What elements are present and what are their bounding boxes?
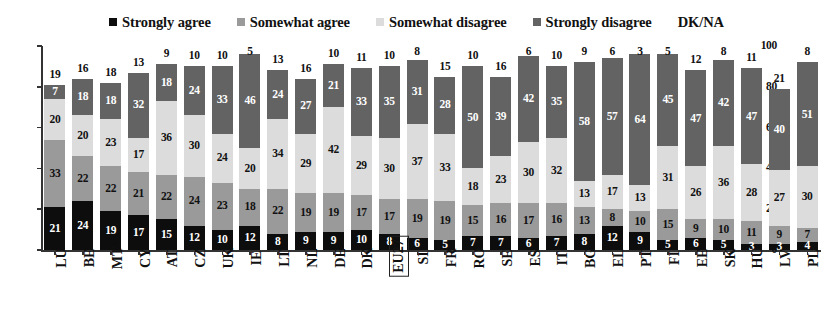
bar-column: 392316716 <box>487 46 515 250</box>
stacked-bar: 4230176 <box>518 56 539 250</box>
stacked-bar: 32172117 <box>128 73 149 250</box>
x-axis-label-de: DE <box>334 248 348 267</box>
chart-plot-area: 020406080100 720332119182022241618232219… <box>41 46 821 250</box>
bar-segment: 20 <box>44 99 65 140</box>
x-label-slot: IT <box>542 256 570 306</box>
x-axis-label-lt: LT <box>278 249 292 266</box>
bar-column: 2430241210 <box>180 46 208 250</box>
bar-column: 720332119 <box>41 46 69 250</box>
bar-segment: 23 <box>100 119 121 166</box>
bar-segment-value: 30 <box>189 140 200 152</box>
stacked-bar: 5018157 <box>462 66 483 250</box>
bar-segment: 18 <box>100 83 121 120</box>
bar-segment-value: 46 <box>244 95 255 107</box>
stacked-bar: 2729199 <box>295 79 316 250</box>
bar-column: 214219910 <box>320 46 348 250</box>
bar-segment: 19 <box>295 193 316 232</box>
stacked-bar: 3137196 <box>407 60 428 250</box>
bar-segment: 27 <box>295 79 316 134</box>
bar-segment-value: 17 <box>133 149 144 161</box>
bar-segment-value: 42 <box>718 97 729 109</box>
chart-legend: Strongly agreeSomewhat agreeSomewhat dis… <box>0 10 833 34</box>
x-label-slot: ES <box>515 256 543 306</box>
stacked-bar: 4531155 <box>657 54 678 250</box>
bar-segment-value: 32 <box>133 99 144 111</box>
stacked-bar: 3532167 <box>546 66 567 250</box>
bar-segment: 8 <box>267 234 288 250</box>
bar-segment: 13 <box>574 181 595 208</box>
bar-segment-value: 42 <box>328 144 339 156</box>
bar-segment: 57 <box>602 58 623 174</box>
bar-segment: 17 <box>379 199 400 234</box>
stacked-bar: 33242310 <box>212 66 233 250</box>
bar-segment: 22 <box>100 166 121 211</box>
bar-segment-value: 16 <box>495 214 506 226</box>
bar-segment: 17 <box>351 195 372 230</box>
bar-segment-value: 23 <box>495 174 506 186</box>
bar-segment: 17 <box>602 175 623 210</box>
bar-segment-value: 13 <box>579 215 590 227</box>
bar-segment: 30 <box>518 142 539 203</box>
bar-segment: 9 <box>323 232 344 250</box>
stacked-bar: 5813138 <box>574 62 595 250</box>
stacked-bar: 2434228 <box>267 70 288 250</box>
bar-segment-value: 17 <box>384 211 395 223</box>
stacked-bars-group: 7203321191820222416182322191832172117131… <box>41 46 821 250</box>
x-label-slot: NL <box>292 256 320 306</box>
x-axis-label-ro: RO <box>473 248 487 269</box>
bar-segment: 18 <box>462 168 483 205</box>
bar-segment: 30 <box>379 138 400 199</box>
bar-segment-value: 21 <box>133 188 144 200</box>
bar-segment: 42 <box>713 60 734 146</box>
bar-segment-value: 23 <box>217 200 228 212</box>
bar-column: 243422813 <box>264 46 292 250</box>
bar-segment: 16 <box>546 203 567 236</box>
bar-segment-value: 10 <box>718 224 729 236</box>
bar-segment: 19 <box>434 201 455 240</box>
bar-segment-value: 6 <box>414 238 419 250</box>
bar-segment: 17 <box>128 138 149 173</box>
bar-segment-value: 19 <box>300 207 311 219</box>
x-label-slot: CZ <box>180 256 208 306</box>
bar-segment-value: 6 <box>526 238 531 250</box>
bar-segment-value: 19 <box>105 225 116 237</box>
bar-segment: 12 <box>184 226 205 250</box>
x-axis-label-si: SI <box>417 251 431 264</box>
bar-segment: 28 <box>434 77 455 134</box>
bar-segment-value: 9 <box>331 235 336 247</box>
x-label-slot: LV <box>765 256 793 306</box>
bar-segment: 21 <box>128 172 149 215</box>
bar-segment: 18 <box>239 189 260 226</box>
bar-segment-value: 19 <box>412 213 423 225</box>
bar-segment: 58 <box>574 62 595 180</box>
bar-column: 5130748 <box>793 46 821 250</box>
x-axis-label-fr: FR <box>445 249 459 268</box>
bar-column: 283319515 <box>431 46 459 250</box>
bar-segment: 33 <box>212 66 233 133</box>
x-axis-label-pl: PL <box>807 249 821 267</box>
bar-segment: 33 <box>44 140 65 207</box>
bar-segment: 7 <box>44 85 65 99</box>
bar-column: 42301766 <box>515 46 543 250</box>
x-label-slot: FI <box>654 256 682 306</box>
bar-segment-value: 57 <box>607 111 618 123</box>
x-label-slot: LT <box>264 256 292 306</box>
bar-segment-value: 22 <box>272 205 283 217</box>
bar-segment-value: 17 <box>607 186 618 198</box>
x-axis-label-at: AT <box>166 249 180 267</box>
bar-segment: 10 <box>713 219 734 239</box>
x-label-slot: AT <box>152 256 180 306</box>
bar-segment: 19 <box>407 199 428 238</box>
x-axis-label-lu: LU <box>55 248 69 267</box>
bar-segment: 36 <box>713 146 734 219</box>
bar-segment-value: 12 <box>189 232 200 244</box>
x-label-slot: FR <box>431 256 459 306</box>
x-label-slot: PL <box>793 256 821 306</box>
legend-item: Somewhat agree <box>237 15 350 30</box>
bar-segment-value: 20 <box>49 114 60 126</box>
bar-segment: 42 <box>323 107 344 193</box>
bar-segment: 45 <box>657 54 678 146</box>
bar-segment-value: 8 <box>609 212 614 224</box>
x-label-slot: SK <box>710 256 738 306</box>
legend-label: DK/NA <box>678 15 724 30</box>
